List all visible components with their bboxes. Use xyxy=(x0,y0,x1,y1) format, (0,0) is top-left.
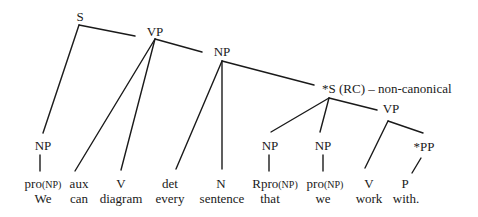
node-pp: *PP xyxy=(414,140,435,153)
node-vp-main: VP xyxy=(147,25,164,38)
branch-np-det xyxy=(176,61,222,169)
branch-src-vp xyxy=(329,98,377,110)
branch-s-np xyxy=(43,25,79,133)
leaf-pos-pro-2: pro(NP) xyxy=(307,177,344,190)
syntax-tree-diagram: S VP NP *S (RC) – non-canonical VP NP NP… xyxy=(0,0,478,217)
leaf-word-every: every xyxy=(156,192,185,205)
leaf-word-can: can xyxy=(70,192,88,205)
leaf-pos-aux: aux xyxy=(70,177,89,190)
node-np-relative: NP xyxy=(262,139,279,152)
branch-np-s-rc xyxy=(222,61,314,85)
leaf-pos-rpro: Rpro(NP) xyxy=(252,177,297,190)
leaf-pos-p: P xyxy=(401,177,408,190)
branch-vp-aux xyxy=(75,39,155,171)
leaf-pos-det: det xyxy=(162,177,178,190)
leaf-word-we: We xyxy=(35,192,52,205)
branch-src-np-rel xyxy=(271,98,329,132)
node-s-relative-clause: *S (RC) – non-canonical xyxy=(322,82,452,95)
leaf-word-with: with. xyxy=(393,192,419,205)
leaf-word-diagram: diagram xyxy=(100,192,143,205)
leaf-pos-v-2: V xyxy=(364,177,373,190)
branch-vp-np xyxy=(155,39,202,52)
node-vp-rc: VP xyxy=(383,102,400,115)
leaf-word-sentence: sentence xyxy=(200,192,245,205)
branch-s-vp xyxy=(79,25,135,36)
branch-pp-p xyxy=(412,158,421,173)
node-np-object: NP xyxy=(214,45,231,58)
node-np-rc-subject: NP xyxy=(315,139,332,152)
leaf-pos-n: N xyxy=(216,177,225,190)
node-np-subject: NP xyxy=(35,139,52,152)
leaf-pos-pro: pro(NP) xyxy=(25,177,62,190)
branch-vprc-v xyxy=(365,121,388,168)
leaf-word-we-2: we xyxy=(315,192,330,205)
branch-vp-v xyxy=(121,39,155,170)
leaf-pos-v: V xyxy=(116,177,125,190)
leaf-word-work: work xyxy=(356,192,383,205)
branch-vprc-pp xyxy=(388,121,423,133)
node-s: S xyxy=(76,10,83,23)
leaf-word-that: that xyxy=(260,192,280,205)
